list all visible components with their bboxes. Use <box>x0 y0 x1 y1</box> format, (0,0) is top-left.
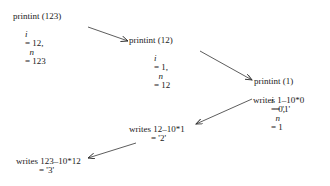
locals-line: i = 12, n = 123 <box>16 21 46 75</box>
var-i-value: = 12, <box>25 38 44 48</box>
call-label: printint (1) <box>254 77 293 86</box>
var-n-value: = 12 <box>154 80 170 90</box>
return-arrow-2 <box>88 143 136 158</box>
var-n-value: = 1 <box>271 122 283 132</box>
call-arrow-2 <box>200 51 252 80</box>
call-arrow-1 <box>88 27 128 41</box>
call-label: printint (123) <box>13 12 61 21</box>
result-label: = '2' <box>151 134 166 143</box>
result-label: = '1' <box>275 105 290 114</box>
call-label: printint (12) <box>129 36 173 45</box>
locals-line: i = 1, n = 12 <box>145 45 170 99</box>
return-arrow-1 <box>196 99 252 124</box>
result-label: = '3' <box>39 166 54 175</box>
var-n-value: = 123 <box>25 56 46 66</box>
